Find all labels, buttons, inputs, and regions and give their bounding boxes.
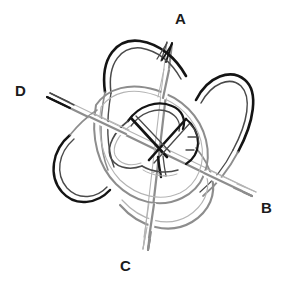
knot-drawing	[0, 0, 284, 283]
label-b: B	[261, 200, 272, 215]
end-nib-d	[47, 93, 69, 106]
loop-bottom	[120, 148, 213, 228]
knot-diagram-figure: A B C D	[0, 0, 284, 283]
label-a: A	[175, 11, 186, 26]
crossing-overstrokes	[90, 69, 245, 238]
label-d: D	[15, 83, 26, 98]
inner-tangle	[109, 104, 199, 177]
label-c: C	[120, 258, 131, 273]
